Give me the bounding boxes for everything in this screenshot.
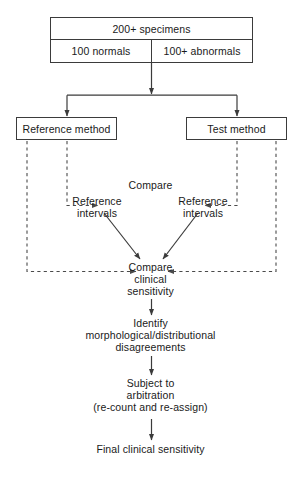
edge-refint-left-to-compare — [104, 213, 140, 259]
label-subject-line2: arbitration — [0, 390, 301, 402]
edge-refint-right-to-compare — [163, 213, 198, 259]
label-final-clinical-sensitivity: Final clinical sensitivity — [0, 444, 301, 456]
label-identify-disagreements: Identify morphological/distributional di… — [0, 318, 301, 353]
box-normals: 100 normals — [50, 39, 152, 63]
label-reference-intervals-right: Reference intervals — [163, 196, 243, 220]
label-reference-intervals-right-line2: intervals — [163, 208, 243, 220]
label-compare-clinical-line2: clinical — [0, 274, 301, 286]
box-test-method: Test method — [186, 117, 287, 140]
box-reference-method: Reference method — [16, 117, 117, 140]
label-subject-line3: (re-count and re-assign) — [0, 402, 301, 414]
label-reference-intervals-left-line2: intervals — [57, 208, 137, 220]
box-specimens: 200+ specimens — [50, 17, 253, 40]
box-abnormals: 100+ abnormals — [151, 39, 253, 63]
flowchart-canvas: 200+ specimens 100 normals 100+ abnormal… — [0, 0, 301, 486]
label-subject-to-arbitration: Subject to arbitration (re-count and re-… — [0, 378, 301, 413]
label-compare-clinical-sensitivity: Compare clinical sensitivity — [0, 262, 301, 297]
label-identify-line3: disagreements — [0, 342, 301, 354]
label-identify-line2: morphological/distributional — [0, 330, 301, 342]
label-compare: Compare — [0, 180, 301, 192]
label-reference-intervals-left: Reference intervals — [57, 196, 137, 220]
label-compare-clinical-line3: sensitivity — [0, 286, 301, 298]
